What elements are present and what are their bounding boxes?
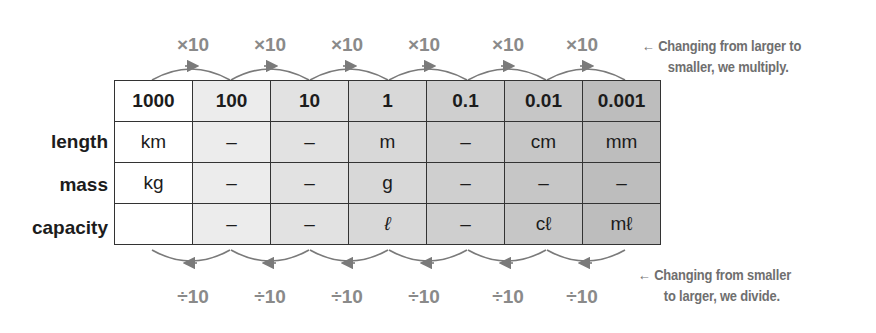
unit-cell: – xyxy=(271,122,349,163)
table-row-length: km – – m – cm mm xyxy=(115,122,661,163)
unit-cell: – xyxy=(193,163,271,204)
header-cell: 100 xyxy=(193,81,271,122)
multiply-label: ×10 xyxy=(394,34,454,56)
row-label-mass: mass xyxy=(0,174,108,196)
place-value-header-row: 1000 100 10 1 0.1 0.01 0.001 xyxy=(115,81,661,122)
unit-cell: ℓ xyxy=(349,204,427,245)
multiply-note-line1: Changing from larger to xyxy=(658,37,801,54)
header-cell: 0.1 xyxy=(427,81,505,122)
unit-cell: cℓ xyxy=(505,204,583,245)
header-cell: 0.001 xyxy=(583,81,661,122)
unit-cell: – xyxy=(427,204,505,245)
unit-cell: kg xyxy=(115,163,193,204)
unit-cell xyxy=(115,204,193,245)
divide-note-line1: Changing from smaller xyxy=(654,266,791,283)
unit-cell: mm xyxy=(583,122,661,163)
multiply-label: ×10 xyxy=(240,34,300,56)
unit-cell: km xyxy=(115,122,193,163)
left-arrow-icon: ← xyxy=(642,37,655,54)
unit-cell: cm xyxy=(505,122,583,163)
multiply-label: ×10 xyxy=(552,34,612,56)
divide-label: ÷10 xyxy=(552,286,612,308)
metric-units-table: 1000 100 10 1 0.1 0.01 0.001 km – – m – … xyxy=(114,80,661,245)
header-cell: 10 xyxy=(271,81,349,122)
divide-label: ÷10 xyxy=(317,286,377,308)
header-cell: 1 xyxy=(349,81,427,122)
unit-cell: mℓ xyxy=(583,204,661,245)
unit-cell: g xyxy=(349,163,427,204)
unit-cell: – xyxy=(193,122,271,163)
header-cell: 1000 xyxy=(115,81,193,122)
multiply-note: ← Changing from larger to smaller, we mu… xyxy=(642,35,801,77)
divide-note: ← Changing from smaller to larger, we di… xyxy=(638,264,791,306)
row-label-capacity: capacity xyxy=(0,217,108,239)
table-row-capacity: – – ℓ – cℓ mℓ xyxy=(115,204,661,245)
unit-cell: m xyxy=(349,122,427,163)
unit-cell: – xyxy=(583,163,661,204)
unit-cell: – xyxy=(505,163,583,204)
multiply-note-line2: smaller, we multiply. xyxy=(642,56,801,77)
header-cell: 0.01 xyxy=(505,81,583,122)
multiply-label: ×10 xyxy=(317,34,377,56)
divide-label: ÷10 xyxy=(478,286,538,308)
divide-note-line2: to larger, we divide. xyxy=(638,285,791,306)
unit-cell: – xyxy=(271,204,349,245)
unit-cell: – xyxy=(427,163,505,204)
unit-cell: – xyxy=(427,122,505,163)
divide-label: ÷10 xyxy=(240,286,300,308)
unit-cell: – xyxy=(193,204,271,245)
multiply-label: ×10 xyxy=(478,34,538,56)
divide-label: ÷10 xyxy=(394,286,454,308)
row-label-length: length xyxy=(0,131,108,153)
multiply-label: ×10 xyxy=(163,34,223,56)
divide-label: ÷10 xyxy=(163,286,223,308)
table-row-mass: kg – – g – – – xyxy=(115,163,661,204)
unit-cell: – xyxy=(271,163,349,204)
left-arrow-icon: ← xyxy=(638,266,651,283)
